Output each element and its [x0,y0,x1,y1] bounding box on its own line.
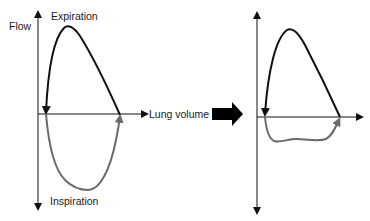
y-axis-label-flow: Flow [9,21,31,32]
right-block-arrow-icon [212,102,243,126]
right-flow-volume-loop [257,13,362,213]
bottom-label-inspiration: Inspiration [50,196,98,207]
right-expiration-curve [265,29,340,117]
top-label-expiration: Expiration [51,11,98,22]
left-expiration-curve [46,26,120,115]
right-inspiration-curve [265,117,339,142]
left-inspiration-curve [46,114,120,190]
x-axis-label-lung-volume: Lung volume [149,109,209,120]
left-flow-volume-loop [38,12,147,209]
